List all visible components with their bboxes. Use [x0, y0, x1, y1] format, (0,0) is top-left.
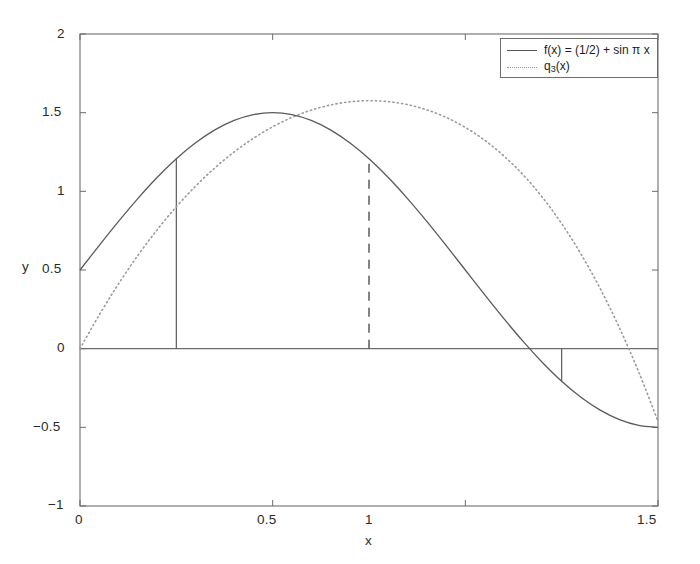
- x-axis-title: x: [365, 533, 372, 548]
- legend-swatch-solid-icon: [507, 44, 537, 56]
- y-tick-label-0p5: 0.5: [42, 261, 61, 276]
- vertical-markers: [176, 159, 561, 382]
- y-tick-label-1: 1: [57, 183, 65, 198]
- x-tick-label-1p5: 1.5: [637, 512, 656, 527]
- legend-label-q3: q3(x): [544, 60, 570, 74]
- x-tick-label-0: 0: [75, 512, 83, 527]
- legend-label-f: f(x) = (1/2) + sin π x: [544, 44, 650, 56]
- plot-frame: [80, 34, 658, 506]
- legend-label-q3-tail: (x): [556, 59, 570, 73]
- y-axis-title: y: [22, 259, 29, 274]
- legend: f(x) = (1/2) + sin π x q3(x): [500, 38, 658, 78]
- x-tick-label-1: 1: [365, 512, 373, 527]
- series-f-curve: [80, 113, 658, 428]
- legend-entry-q3: q3(x): [507, 58, 570, 76]
- y-tick-label-m1: −1: [48, 497, 64, 512]
- x-tick-label-0p5: 0.5: [257, 512, 276, 527]
- y-tick-label-0: 0: [57, 340, 65, 355]
- legend-swatch-dotted-icon: [507, 61, 537, 73]
- legend-label-q3-base: q: [544, 59, 551, 73]
- x-axis-ticks: [80, 34, 658, 506]
- legend-entry-f: f(x) = (1/2) + sin π x: [507, 41, 650, 59]
- y-tick-label-2: 2: [57, 26, 65, 41]
- y-axis-ticks: [80, 34, 658, 506]
- y-tick-label-m0p5: −0.5: [33, 419, 60, 434]
- y-tick-label-1p5: 1.5: [42, 104, 61, 119]
- plot-canvas: [0, 0, 700, 564]
- figure-container: 2 1.5 1 0.5 0 −0.5 −1 0 0.5 1 1.5 x y f(…: [0, 0, 700, 564]
